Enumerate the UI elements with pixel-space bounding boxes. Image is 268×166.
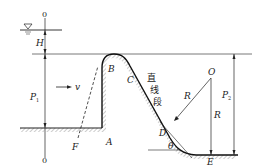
radius-OE-arrow xyxy=(210,150,213,155)
velocity-arrow-head xyxy=(67,85,72,88)
reference-label-top: 0 xyxy=(42,10,47,19)
radius-OD xyxy=(175,78,211,120)
reference-label-bottom: 0 xyxy=(42,156,47,165)
label-F: F xyxy=(71,142,79,152)
P1-arrow-down xyxy=(44,123,47,128)
label-v: v xyxy=(75,82,80,92)
P2-arrow-down xyxy=(233,150,236,155)
label-D: D xyxy=(158,128,166,138)
radius-OD-arrow xyxy=(174,116,179,121)
label-B: B xyxy=(107,64,115,74)
label-R1: R xyxy=(183,91,191,101)
label-E: E xyxy=(206,157,214,166)
label-A: A xyxy=(105,137,113,147)
label-P2: P2 xyxy=(221,90,231,101)
P1-arrow-up xyxy=(44,54,47,59)
dashed-line-FB xyxy=(78,66,98,138)
label-H: H xyxy=(35,38,44,48)
P2-arrow-up xyxy=(233,54,236,59)
label-R2: R xyxy=(213,110,221,120)
label-P1: P1 xyxy=(29,92,39,103)
label-straight-3: 段 xyxy=(153,96,162,107)
label-straight-2: 线 xyxy=(150,84,159,95)
H-arrow-up xyxy=(44,30,47,35)
spillway-diagram: 0 0 H P1 v B C 直 线 段 A F O R R P2 D θ E xyxy=(0,0,268,166)
water-surface-icon xyxy=(24,24,32,34)
H-arrow-down xyxy=(44,49,47,54)
label-C: C xyxy=(127,75,134,85)
label-O: O xyxy=(208,67,216,77)
label-theta: θ xyxy=(168,141,174,151)
label-straight-1: 直 xyxy=(147,72,156,83)
